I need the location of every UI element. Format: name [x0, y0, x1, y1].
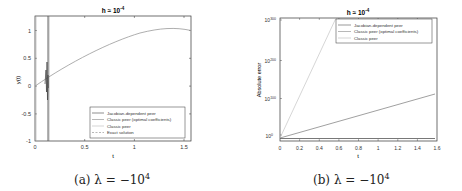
legend-item: Classic peer (optimal coefficients) [354, 29, 419, 34]
svg-text:10100: 10100 [265, 96, 276, 103]
caption-exponent: 4 [145, 172, 150, 181]
svg-text:1.5: 1.5 [180, 144, 188, 150]
figure-b: h ≈ 10-4 10300 10200 10100 100 0 0.2 0.4… [231, 0, 462, 170]
svg-text:0: 0 [279, 145, 282, 151]
legend-item: Jacobian-dependent peer [354, 23, 403, 28]
y-axis-label-a: y(t) [15, 76, 21, 85]
legend-item: Classic peer [107, 124, 131, 129]
caption-label: (b) [313, 173, 330, 187]
svg-text:0.4: 0.4 [316, 145, 323, 151]
caption-label: (a) [74, 173, 91, 187]
legend-item: Classic peer [354, 36, 378, 41]
chart-a: h ≈ 10-4 1 0.5 0 -0.5 -1 0 0.5 1 1.5 t y… [0, 0, 231, 170]
x-ticks-a: 0 0.5 1 1.5 [33, 144, 187, 150]
caption-text: λ = −10 [334, 173, 385, 187]
caption-text: λ = −10 [94, 173, 145, 187]
svg-text:-1: -1 [26, 138, 31, 144]
legend-item: Jacobian-dependent peer [107, 111, 156, 116]
chart-b-title: h ≈ 10-4 [347, 8, 370, 16]
svg-text:1.6: 1.6 [434, 145, 441, 151]
caption-a: (a) λ = −104 [74, 172, 150, 187]
legend-b: Jacobian-dependent peer Classic peer (op… [336, 19, 432, 43]
svg-text:1: 1 [28, 28, 31, 34]
y-ticks-a: 1 0.5 0 -0.5 -1 [22, 28, 31, 145]
svg-text:1.4: 1.4 [414, 145, 421, 151]
svg-text:1: 1 [377, 145, 380, 151]
x-axis-label-b: t [357, 153, 359, 159]
svg-text:10300: 10300 [265, 17, 276, 24]
legend-item: Classic peer (optimal coefficients) [107, 117, 172, 122]
svg-text:100: 100 [265, 133, 273, 140]
caption-exponent: 4 [385, 172, 390, 181]
svg-text:0.6: 0.6 [335, 145, 342, 151]
svg-text:1.2: 1.2 [394, 145, 401, 151]
x-ticks-b: 0 0.2 0.4 0.6 0.8 1 1.2 1.4 1.6 [279, 145, 441, 151]
x-axis-label-a: t [112, 153, 114, 159]
svg-text:10200: 10200 [265, 58, 276, 65]
y-ticks-b: 10300 10200 10100 100 [265, 17, 276, 140]
chart-b: h ≈ 10-4 10300 10200 10100 100 0 0.2 0.4… [231, 0, 462, 170]
svg-text:1: 1 [133, 144, 136, 150]
svg-text:0.5: 0.5 [81, 144, 89, 150]
svg-text:-0.5: -0.5 [22, 111, 31, 117]
caption-b: (b) λ = −104 [313, 172, 390, 187]
chart-a-title: h ≈ 10-4 [102, 6, 125, 14]
figure-a: h ≈ 10-4 1 0.5 0 -0.5 -1 0 0.5 1 1.5 t y… [0, 0, 231, 170]
legend-a: Jacobian-dependent peer Classic peer (op… [90, 107, 185, 138]
svg-text:0.5: 0.5 [23, 55, 31, 61]
svg-text:0: 0 [28, 83, 31, 89]
y-axis-label-b: Absolute error [256, 63, 262, 98]
legend-item: Exact solution [107, 130, 134, 135]
svg-text:0: 0 [33, 144, 36, 150]
svg-text:0.8: 0.8 [355, 145, 362, 151]
svg-text:0.2: 0.2 [296, 145, 303, 151]
